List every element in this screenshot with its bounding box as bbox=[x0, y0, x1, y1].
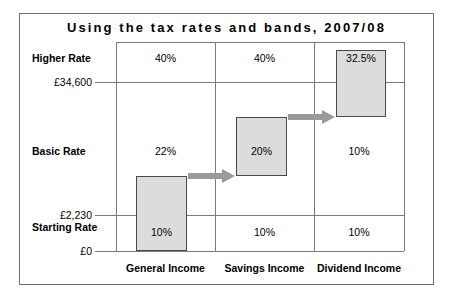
column-header-savings-income: Savings Income bbox=[215, 262, 314, 274]
value-higher-dividend: 32.5% bbox=[336, 52, 386, 64]
band-label-basic-rate: Basic Rate bbox=[32, 145, 86, 157]
value-higher-savings: 40% bbox=[215, 52, 314, 64]
band-label-higher-rate: Higher Rate bbox=[32, 52, 91, 64]
value-basic-general: 22% bbox=[116, 145, 215, 157]
arrow-savings-to-dividend bbox=[288, 110, 335, 124]
gridline-zero bbox=[95, 251, 404, 252]
axis-tick-zero: £0 bbox=[26, 245, 92, 257]
value-basic-savings: 20% bbox=[236, 145, 287, 157]
band-label-starting-rate: Starting Rate bbox=[32, 221, 97, 233]
value-basic-dividend: 10% bbox=[314, 145, 404, 157]
axis-tick-2230: £2,230 bbox=[26, 209, 92, 221]
gridline-divider-1 bbox=[215, 42, 216, 251]
arrow-general-to-savings bbox=[188, 169, 235, 183]
axis-tick-34600: £34,600 bbox=[26, 76, 92, 88]
value-starting-dividend: 10% bbox=[314, 226, 404, 238]
gridline-top bbox=[116, 42, 404, 43]
value-starting-savings: 10% bbox=[215, 226, 314, 238]
tax-rates-chart: Using the tax rates and bands, 2007/08 H… bbox=[0, 0, 453, 299]
chart-title: Using the tax rates and bands, 2007/08 bbox=[19, 20, 434, 35]
gridline-right-edge bbox=[404, 42, 405, 251]
value-higher-general: 40% bbox=[116, 52, 215, 64]
column-header-general-income: General Income bbox=[116, 262, 215, 274]
highlight-box-general-income bbox=[136, 176, 187, 251]
value-starting-general: 10% bbox=[136, 226, 187, 238]
column-header-dividend-income: Dividend Income bbox=[314, 262, 404, 274]
